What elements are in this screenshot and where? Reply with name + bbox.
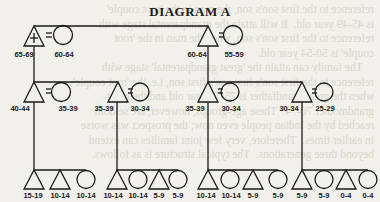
female-circle-icon xyxy=(269,171,287,189)
age-label: 0-4 xyxy=(341,191,352,200)
age-label: 5-9 xyxy=(319,191,330,200)
age-label: 30-34 xyxy=(279,104,298,113)
kinship-diagram xyxy=(0,0,380,202)
male-triangle-icon xyxy=(292,82,312,102)
age-label: 5-9 xyxy=(297,191,308,200)
female-circle-icon xyxy=(131,83,149,101)
gen3-group-2 xyxy=(107,170,187,189)
age-label: 10-14 xyxy=(128,191,147,200)
gen2-couple-3 xyxy=(198,82,239,102)
male-triangle-icon xyxy=(107,170,127,189)
age-label: 5-9 xyxy=(248,191,259,200)
age-label: 5-9 xyxy=(173,191,184,200)
male-triangle-icon xyxy=(50,170,70,189)
gen2-couple-2 xyxy=(108,82,149,102)
age-label: 25-29 xyxy=(315,104,334,113)
age-label: 35-39 xyxy=(94,104,113,113)
age-label: 55-59 xyxy=(224,50,243,59)
male-triangle-icon xyxy=(149,170,169,189)
female-circle-icon xyxy=(221,83,239,101)
male-triangle-icon xyxy=(198,82,218,102)
age-label: 35-39 xyxy=(58,104,77,113)
age-label: 60-64 xyxy=(187,50,206,59)
age-label: 15-19 xyxy=(23,191,42,200)
age-label: 10-14 xyxy=(221,191,240,200)
age-label: 40-44 xyxy=(10,104,29,113)
age-label: 10-14 xyxy=(196,191,215,200)
female-circle-icon xyxy=(224,26,243,45)
male-triangle-icon xyxy=(336,170,356,189)
female-circle-icon xyxy=(221,171,239,189)
age-label: 10-14 xyxy=(50,191,69,200)
gen1-couple-2 xyxy=(198,26,243,47)
age-label: 60-64 xyxy=(54,50,73,59)
age-label: 10-14 xyxy=(76,191,95,200)
male-triangle-icon xyxy=(198,170,218,189)
age-label: 0-4 xyxy=(363,191,374,200)
gen3-group-3 xyxy=(198,170,287,189)
gen2-couple-1 xyxy=(24,82,71,102)
male-triangle-icon xyxy=(108,82,128,102)
female-circle-icon xyxy=(54,26,73,45)
age-label: 35-39 xyxy=(185,104,204,113)
gen2-couple-4 xyxy=(292,82,333,102)
female-circle-icon xyxy=(77,171,95,189)
age-label: 5-9 xyxy=(154,191,165,200)
female-circle-icon xyxy=(129,171,147,189)
age-label: 30-34 xyxy=(221,104,240,113)
male-triangle-icon xyxy=(24,170,44,189)
female-circle-icon xyxy=(359,171,377,189)
gen3-group-1 xyxy=(24,170,95,189)
male-triangle-icon xyxy=(198,26,218,46)
age-label: 5-9 xyxy=(273,191,284,200)
female-circle-icon xyxy=(315,83,333,101)
male-triangle-icon xyxy=(243,170,263,189)
female-circle-icon xyxy=(52,83,71,102)
gen1-couple-1 xyxy=(24,26,73,47)
female-circle-icon xyxy=(315,171,333,189)
male-triangle-icon xyxy=(24,82,44,102)
gen3-group-4 xyxy=(292,170,377,189)
age-label: 10-14 xyxy=(103,191,122,200)
male-triangle-icon xyxy=(292,170,312,189)
age-label: 30-34 xyxy=(130,104,149,113)
female-circle-icon xyxy=(169,171,187,189)
age-label: 65-69 xyxy=(14,50,33,59)
